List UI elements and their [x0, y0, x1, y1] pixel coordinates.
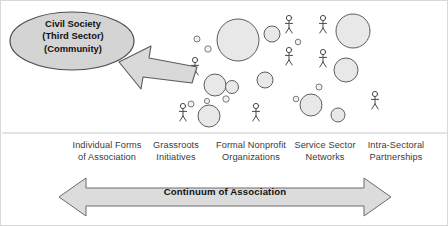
civil-society-line-3: (Community): [19, 43, 127, 55]
cluster-circle: [336, 14, 370, 48]
label-intra-sectoral: Intra-Sectoral Partnerships: [344, 140, 448, 163]
cluster-circle: [264, 26, 280, 42]
cluster-circle: [295, 39, 301, 45]
cluster-circle: [194, 36, 200, 42]
continuum-arrow-label: Continuum of Association: [1, 186, 448, 197]
left-pointing-arrow: [119, 46, 197, 89]
stick-figure-icon: [319, 15, 326, 33]
cluster-circle: [204, 98, 209, 103]
label-intra-sectoral-line-1: Intra-Sectoral: [344, 140, 448, 152]
cluster-circle: [226, 81, 239, 94]
stick-figure-icon: [285, 15, 292, 33]
cluster-circle: [331, 108, 345, 122]
association-cluster: [179, 14, 378, 127]
cluster-circle: [293, 96, 299, 102]
continuum-double-arrow: [59, 178, 391, 216]
civil-society-label: Civil Society (Third Sector) (Community): [19, 18, 127, 55]
stick-figure-icon: [319, 49, 326, 67]
cluster-circle: [316, 84, 322, 90]
civil-society-line-2: (Third Sector): [19, 30, 127, 42]
stick-figure-icon: [179, 103, 186, 121]
stick-figure-icon: [285, 47, 292, 65]
diagram-figure: Civil Society (Third Sector) (Community)…: [0, 0, 448, 226]
cluster-circle: [257, 72, 273, 88]
stick-figure-icon: [252, 103, 259, 121]
civil-society-line-1: Civil Society: [19, 18, 127, 30]
cluster-circle: [300, 94, 322, 116]
cluster-circle: [223, 96, 229, 102]
cluster-circle: [217, 19, 259, 61]
label-intra-sectoral-line-2: Partnerships: [344, 152, 448, 164]
cluster-circle: [205, 46, 211, 52]
cluster-circle: [204, 74, 226, 96]
cluster-circle: [198, 105, 220, 127]
cluster-circle: [334, 58, 358, 82]
stick-figure-icon: [371, 91, 378, 109]
cluster-circle: [188, 101, 194, 107]
